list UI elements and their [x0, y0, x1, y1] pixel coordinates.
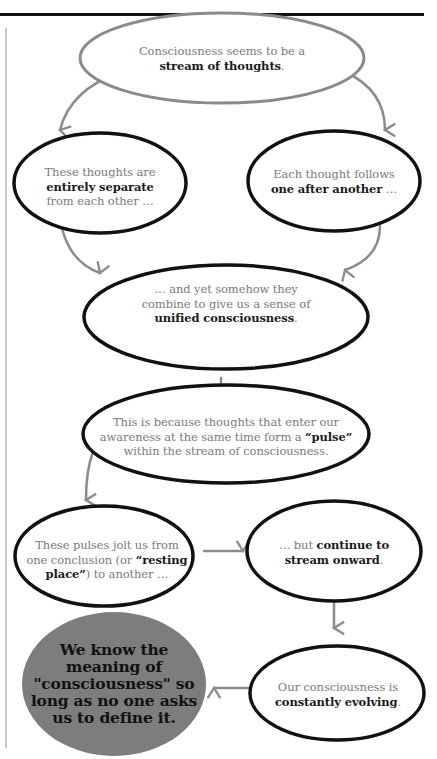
node-n5: This is because thoughts that enter our …	[96, 415, 356, 459]
node-n8: Our consciousness is constantly evolving…	[264, 680, 412, 709]
arrow-n3-n4	[345, 226, 380, 270]
node-n4-bold: unified consciousness	[154, 311, 294, 325]
node-n4: … and yet somehow they combine to give u…	[126, 282, 326, 326]
node-n6-line1: These pulses jolt us from	[35, 538, 178, 552]
node-n2-post: from each other …	[46, 194, 153, 208]
node-n7-bold1: continue to	[316, 538, 389, 552]
node-n1-text: Consciousness seems to be a	[139, 44, 305, 58]
node-n4-line1: … and yet somehow they	[154, 282, 298, 296]
node-n1: Consciousness seems to be a stream of th…	[110, 44, 334, 73]
node-n4-post: .	[294, 311, 298, 325]
node-n7-post: .	[380, 553, 384, 567]
node-n5-line1: This is because thoughts that enter our	[113, 415, 339, 429]
node-n8-bold: constantly evolving	[275, 695, 398, 709]
node-n8-post: .	[398, 695, 402, 709]
node-n2: These thoughts are entirely separate fro…	[30, 165, 170, 209]
arrow-n2-n4	[62, 228, 100, 273]
node-n8-text: Our consciousness is	[278, 680, 398, 694]
arrow-n5-n6	[86, 452, 93, 500]
node-n2-text: These thoughts are	[45, 165, 156, 179]
node-n1-post: .	[281, 59, 285, 73]
node-n1-bold: stream of thoughts	[159, 59, 281, 73]
arrow-n1-n3	[345, 72, 385, 130]
node-n5-bold: “pulse”	[305, 430, 352, 444]
node-n3-post: …	[382, 182, 397, 196]
node-n4-line2: combine to give us a sense of	[142, 297, 311, 311]
node-n6-bold1: “resting	[136, 553, 188, 567]
node-n2-bold: entirely separate	[46, 180, 154, 194]
node-n5-line2: awareness at the same time form a	[100, 430, 305, 444]
node-n9: We know the meaning of "consciousness" s…	[22, 641, 206, 726]
node-n7-pre: … but	[279, 538, 317, 552]
node-n6-line3: ) to another …	[86, 567, 169, 581]
node-n7-bold2: stream onward	[285, 553, 380, 567]
node-n6-line2: one conclusion (or	[26, 553, 135, 567]
node-n7: … but continue to stream onward.	[262, 538, 406, 567]
node-n5-line3: within the stream of consciousness.	[123, 444, 328, 458]
node-n3-text: Each thought follows	[273, 167, 394, 181]
node-n3-bold: one after another	[271, 182, 382, 196]
node-n6: These pulses jolt us from one conclusion…	[24, 538, 190, 582]
node-n3: Each thought follows one after another …	[262, 167, 406, 196]
node-n6-bold2: place”	[46, 567, 86, 581]
node-n9-line5: us to define it.	[52, 708, 175, 727]
